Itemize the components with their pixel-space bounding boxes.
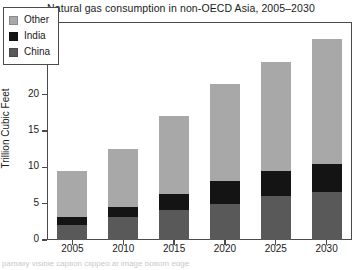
bar-group[interactable] [261, 22, 291, 240]
y-tick-label: 5 [0, 197, 39, 208]
bar-segment-india[interactable] [159, 194, 189, 210]
bar-segment-other[interactable] [210, 84, 240, 181]
bar-segment-other[interactable] [159, 116, 189, 194]
y-tick-mark [42, 94, 47, 95]
bar-segment-china[interactable] [159, 210, 189, 240]
bar-group[interactable] [108, 22, 138, 240]
bar-segment-india[interactable] [312, 164, 342, 192]
legend-item: India [9, 28, 50, 44]
legend-label: Other [24, 15, 49, 25]
y-tick-label: 20 [0, 88, 39, 99]
chart-figure: Natural gas consumption in non-OECD Asia… [0, 0, 362, 270]
y-tick-label: 10 [0, 160, 39, 171]
y-tick-mark [42, 167, 47, 168]
x-axis-tick-label: 2030 [297, 243, 357, 254]
chart-legend: OtherIndiaChina [3, 7, 59, 65]
y-tick-label: 15 [0, 124, 39, 135]
plot-frame [47, 22, 352, 240]
legend-swatch-india [9, 32, 18, 41]
plot-area [48, 23, 351, 239]
bar-group[interactable] [159, 22, 189, 240]
caption-cutoff-text: partially visible caption clipped at ima… [2, 262, 189, 268]
bar-group[interactable] [210, 22, 240, 240]
y-tick-mark [42, 239, 47, 240]
caption-strip: partially visible caption clipped at ima… [0, 262, 362, 270]
legend-label: India [24, 31, 46, 41]
bar-segment-other[interactable] [312, 39, 342, 164]
bar-segment-china[interactable] [108, 217, 138, 240]
legend-item: Other [9, 12, 50, 28]
bar-group[interactable] [312, 22, 342, 240]
y-tick-mark [42, 203, 47, 204]
bar-segment-china[interactable] [210, 204, 240, 240]
legend-item: China [9, 44, 50, 60]
bar-segment-india[interactable] [57, 217, 87, 225]
legend-label: China [24, 47, 50, 57]
bar-segment-china[interactable] [57, 225, 87, 240]
bar-segment-india[interactable] [261, 171, 291, 196]
bar-segment-china[interactable] [312, 192, 342, 240]
y-tick-label: 0 [0, 233, 39, 244]
bar-segment-india[interactable] [108, 207, 138, 217]
y-tick-mark [42, 130, 47, 131]
bar-segment-china[interactable] [261, 196, 291, 240]
bar-group[interactable] [57, 22, 87, 240]
legend-swatch-china [9, 48, 18, 57]
bar-segment-other[interactable] [261, 62, 291, 171]
bar-segment-other[interactable] [57, 171, 87, 217]
legend-swatch-other [9, 16, 18, 25]
bar-segment-other[interactable] [108, 149, 138, 206]
bar-segment-india[interactable] [210, 181, 240, 204]
